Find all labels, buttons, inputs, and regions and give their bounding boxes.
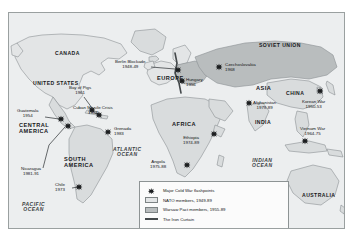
- flashpoint-marker-grenada[interactable]: [105, 129, 112, 136]
- flashpoint-label-angola: Angola 1975-88: [150, 160, 166, 170]
- flashpoint-years: 1954: [23, 113, 33, 118]
- flashpoint-marker-korean-war[interactable]: [317, 88, 324, 95]
- legend-row-flashpoints: Major Cold War flashpoints: [145, 186, 283, 196]
- flashpoint-label-czechoslovakia: Czechoslovakia 1968: [225, 63, 256, 73]
- leader-berlin-blockade: [151, 67, 175, 69]
- flashpoint-years: 1948-49: [122, 64, 138, 69]
- legend-label: The Iron Curtain: [163, 217, 194, 222]
- flashpoint-years: 1973: [55, 187, 65, 192]
- star-icon: [145, 188, 158, 195]
- legend-row-warsaw-pact: Warsaw Pact members, 1955-89: [145, 205, 283, 215]
- flashpoint-years: 1981-91: [23, 171, 39, 176]
- flashpoint-label-ethiopia: Ethiopia 1974-89: [183, 136, 199, 146]
- flashpoint-label-chile: Chile 1973: [55, 183, 65, 193]
- nato-swatch-icon: [145, 197, 158, 203]
- flashpoint-years: 1964-75: [305, 131, 321, 136]
- flashpoint-years: 1983: [114, 131, 124, 136]
- flashpoint-label-afghanistan: Afghanistan 1979-89: [253, 101, 276, 111]
- cold-war-map-figure: CANADA UNITED STATES CENTRAL AMERICA SOU…: [0, 0, 353, 241]
- flashpoint-marker-berlin-blockade[interactable]: [175, 67, 182, 74]
- flashpoint-label-berlin-blockade: Berlin Blockade 1948-49: [115, 60, 146, 70]
- flashpoint-marker-hungary[interactable]: [179, 78, 186, 85]
- flashpoint-label-cuban-missile-crisis: Cuban Missile Crisis 1962: [73, 106, 113, 116]
- legend-label: Major Cold War flashpoints: [163, 188, 214, 193]
- flashpoint-years: 1962: [88, 110, 98, 115]
- legend-row-iron-curtain: The Iron Curtain: [145, 215, 283, 225]
- flashpoint-marker-czechoslovakia[interactable]: [216, 64, 223, 71]
- flashpoint-years: 1968: [225, 67, 235, 72]
- flashpoint-label-grenada: Grenada 1983: [114, 127, 131, 137]
- flashpoint-marker-afghanistan[interactable]: [246, 100, 253, 107]
- legend-row-nato: NATO members, 1949-89: [145, 196, 283, 206]
- leader-nicaragua: [43, 127, 65, 168]
- flashpoint-years: 1974-89: [183, 140, 199, 145]
- flashpoint-label-hungary: Hungary 1956: [186, 78, 203, 88]
- legend-label: Warsaw Pact members, 1955-89: [163, 207, 225, 212]
- flashpoint-marker-ethiopia[interactable]: [211, 131, 218, 138]
- warsaw-pact-swatch-icon: [145, 207, 158, 213]
- map-legend: Major Cold War flashpoints NATO members,…: [139, 181, 289, 229]
- map-plate: CANADA UNITED STATES CENTRAL AMERICA SOU…: [8, 12, 345, 229]
- flashpoint-years: 1956: [186, 82, 196, 87]
- flashpoint-marker-guatemala[interactable]: [58, 116, 65, 123]
- flashpoint-label-nicaragua: Nicaragua 1981-91: [21, 167, 41, 177]
- flashpoint-years: 1975-88: [150, 164, 166, 169]
- flashpoint-years: 1950-53: [306, 104, 322, 109]
- flashpoint-marker-chile[interactable]: [76, 184, 83, 191]
- flashpoint-marker-vietnam-war[interactable]: [302, 138, 309, 145]
- legend-label: NATO members, 1949-89: [163, 198, 212, 203]
- flashpoint-marker-nicaragua[interactable]: [65, 123, 72, 130]
- flashpoint-years: 1979-89: [257, 105, 273, 110]
- flashpoint-label-guatemala: Guatemala 1954: [17, 109, 38, 119]
- flashpoint-label-korean-war: Korean War 1950-53: [302, 100, 325, 110]
- flashpoint-label-vietnam-war: Vietnam War 1964-75: [300, 127, 325, 137]
- flashpoint-marker-angola[interactable]: [184, 162, 191, 169]
- flashpoint-years: 1961: [75, 90, 85, 95]
- flashpoint-label-bay-of-pigs: Bay of Pigs 1961: [69, 86, 91, 96]
